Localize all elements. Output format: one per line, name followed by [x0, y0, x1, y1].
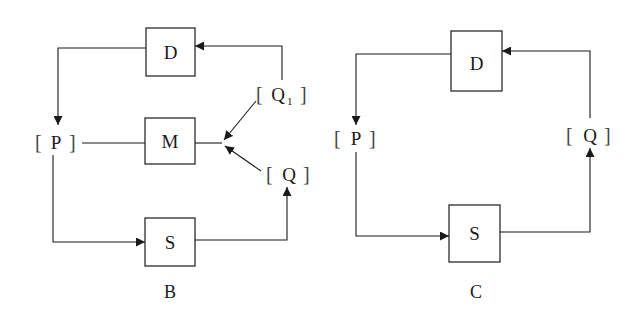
bracket-close: ] — [69, 131, 76, 153]
bracket-close: ] — [369, 127, 376, 149]
arrow-q1-to-junction — [224, 101, 256, 140]
box-s: S — [145, 218, 195, 266]
arrow-d-to-p — [58, 48, 146, 125]
box-d: D — [146, 28, 195, 76]
bracket-open: [ — [566, 124, 573, 146]
box-d-label: D — [164, 42, 178, 63]
node-q: [ Q ] — [266, 163, 310, 185]
bracket-close: ] — [604, 124, 611, 146]
diagram-canvas: D M S [ P ] [ Q 1 ] [ Q ] — [0, 0, 643, 322]
box-d: D — [451, 31, 502, 91]
arrow-s-to-q — [500, 148, 590, 232]
box-d-label: D — [470, 53, 484, 74]
bracket-open: [ — [266, 163, 273, 185]
box-m-label: M — [162, 131, 179, 152]
caption-b: B — [164, 282, 176, 302]
node-q1-label: Q — [271, 84, 285, 105]
box-m: M — [145, 118, 195, 164]
arrow-p-to-s — [356, 152, 449, 236]
node-p: [ P ] — [334, 127, 376, 149]
arrow-q-to-junction — [225, 146, 261, 171]
arrow-d-to-p — [356, 54, 451, 125]
arrow-q-to-d — [502, 51, 590, 118]
bracket-close: ] — [303, 163, 310, 185]
bracket-close: ] — [300, 83, 307, 105]
box-s-label: S — [469, 223, 480, 244]
bracket-open: [ — [256, 83, 263, 105]
bracket-open: [ — [35, 131, 42, 153]
node-q-label: Q — [583, 125, 597, 146]
node-q-label: Q — [282, 164, 296, 185]
node-q: [ Q ] — [566, 124, 611, 146]
bracket-open: [ — [334, 127, 341, 149]
arrow-s-to-q — [195, 187, 287, 240]
node-p-label: P — [51, 132, 62, 153]
box-s: S — [449, 205, 500, 262]
arrow-p-to-s — [53, 155, 145, 242]
node-q1: [ Q 1 ] — [256, 83, 307, 107]
box-s-label: S — [165, 232, 176, 253]
caption-c: C — [470, 282, 482, 302]
diagram-b: D M S [ P ] [ Q 1 ] [ Q ] — [35, 28, 310, 302]
node-p-label: P — [351, 128, 362, 149]
arrow-q1-to-d — [195, 46, 282, 80]
node-p: [ P ] — [35, 131, 76, 153]
diagram-c: D S [ P ] [ Q ] C — [334, 31, 611, 302]
node-q1-subscript: 1 — [287, 95, 293, 107]
